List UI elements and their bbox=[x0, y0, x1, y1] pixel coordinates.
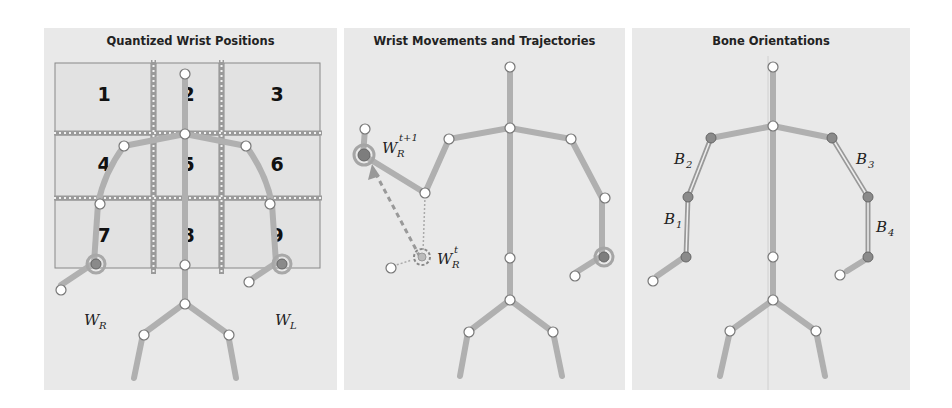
bone-end-joints bbox=[681, 133, 873, 262]
svg-text:t: t bbox=[454, 244, 459, 255]
svg-text:R: R bbox=[396, 148, 405, 159]
svg-text:4: 4 bbox=[887, 227, 894, 238]
svg-text:3: 3 bbox=[868, 159, 874, 170]
panel-bone-orientations: Bone Orientations bbox=[632, 28, 910, 390]
highlighted-bones bbox=[686, 138, 868, 257]
skeleton-grid-diagram: 1 2 3 4 5 6 7 8 9 bbox=[44, 28, 337, 390]
panel-wrist-movements: Wrist Movements and Trajectories bbox=[344, 28, 625, 390]
panel-quantized-wrist-positions: Quantized Wrist Positions 1 bbox=[44, 28, 337, 390]
svg-text:R: R bbox=[451, 259, 460, 270]
skeleton-joints bbox=[360, 62, 610, 337]
bone-b2-label: B bbox=[673, 150, 685, 168]
cell-1-label: 1 bbox=[97, 83, 110, 105]
bone-orientation-diagram: B 2 B 1 B 3 B 4 bbox=[632, 28, 910, 390]
skeleton-trajectory-diagram: W R t+1 W R t bbox=[344, 28, 625, 390]
svg-text:t+1: t+1 bbox=[399, 132, 418, 143]
svg-text:L: L bbox=[289, 320, 297, 331]
cell-6-label: 6 bbox=[270, 153, 283, 175]
bone-b4-label: B bbox=[875, 218, 887, 236]
bone-b1-label: B bbox=[663, 210, 675, 228]
skeleton-bones bbox=[363, 67, 602, 376]
skeleton-joints bbox=[648, 62, 845, 336]
svg-text:1: 1 bbox=[676, 219, 682, 230]
bone-b3-label: B bbox=[855, 150, 867, 168]
svg-text:R: R bbox=[98, 320, 107, 331]
svg-text:2: 2 bbox=[685, 159, 692, 170]
cell-3-label: 3 bbox=[270, 83, 283, 105]
